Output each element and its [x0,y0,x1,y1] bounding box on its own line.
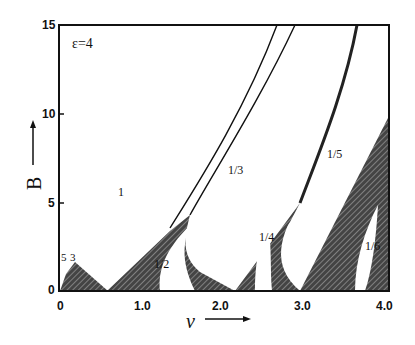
region-label-3: 3 [70,252,76,263]
hatched-region-small [60,262,108,291]
hatched-region-sixth [300,118,388,291]
boundary-line-1 [170,25,277,228]
region-label-half: 1/2 [154,258,169,270]
region-label-1: 1 [118,186,124,198]
region-label-third: 1/3 [228,164,243,176]
y-tick-5: 5 [48,197,55,209]
y-tick-0: 0 [48,284,55,296]
y-tick-10: 10 [42,108,55,120]
x-tick-2: 2.0 [212,300,229,312]
phase-diagram-plot [0,0,415,345]
x-tick-4: 4.0 [376,300,393,312]
y-axis-label: B [24,177,44,190]
x-tick-3: 3.0 [294,300,311,312]
x-axis-label: ν [186,311,195,331]
region-label-5: 5 [61,252,67,263]
y-tick-15: 15 [42,19,55,31]
region-label-fifth: 1/5 [327,148,342,160]
region-label-sixth: 1/6 [365,240,380,252]
boundary-line-2 [190,25,295,215]
x-tick-0: 0 [57,300,64,312]
region-label-quarter: 1/4 [259,231,274,243]
boundary-line-3 [300,25,357,203]
epsilon-annotation: ε=4 [72,37,93,51]
x-tick-1: 1.0 [134,300,151,312]
